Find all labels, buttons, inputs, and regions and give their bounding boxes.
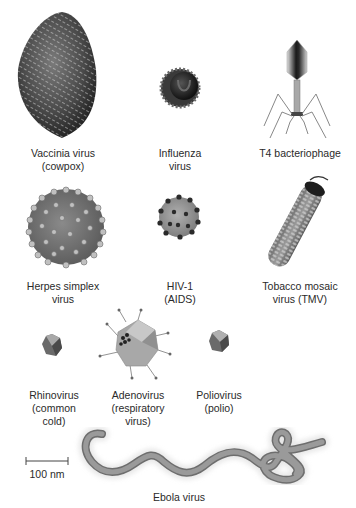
hiv-virus-label: HIV-1(AIDS) bbox=[164, 280, 196, 306]
virus-size-figure: Vaccinia virus(cowpox) Influenzavirus T4… bbox=[0, 0, 356, 508]
t4-bacteriophage-label: T4 bacteriophage bbox=[259, 147, 341, 160]
ebola-virus-label: Ebola virus bbox=[153, 491, 205, 504]
vaccinia-virus-label: Vaccinia virus(cowpox) bbox=[31, 147, 95, 173]
hiv-virus-illustration bbox=[157, 194, 200, 239]
tobacco-mosaic-virus-label: Tobacco mosaicvirus (TMV) bbox=[262, 280, 337, 306]
rhinovirus-label: Rhinovirus(commoncold) bbox=[29, 389, 79, 428]
vaccinia-virus-illustration bbox=[18, 12, 97, 138]
adenovirus-illustration bbox=[99, 309, 172, 380]
influenza-virus-illustration bbox=[161, 69, 199, 107]
scale-bar-label: 100 nm bbox=[29, 468, 64, 481]
virus-illustrations bbox=[0, 0, 356, 508]
adenovirus-label: Adenovirus(respiratoryvirus) bbox=[111, 389, 164, 428]
influenza-virus-label: Influenzavirus bbox=[159, 147, 202, 173]
tobacco-mosaic-virus-illustration bbox=[265, 177, 328, 270]
scale-bar bbox=[26, 457, 68, 465]
t4-bacteriophage-illustration bbox=[264, 40, 330, 138]
poliovirus-illustration bbox=[209, 330, 229, 352]
ebola-virus-illustration bbox=[86, 432, 322, 479]
poliovirus-label: Poliovirus(polio) bbox=[196, 389, 242, 415]
herpes-simplex-virus-label: Herpes simplexvirus bbox=[27, 280, 99, 306]
rhinovirus-illustration bbox=[42, 334, 62, 356]
herpes-simplex-virus-illustration bbox=[26, 187, 106, 268]
